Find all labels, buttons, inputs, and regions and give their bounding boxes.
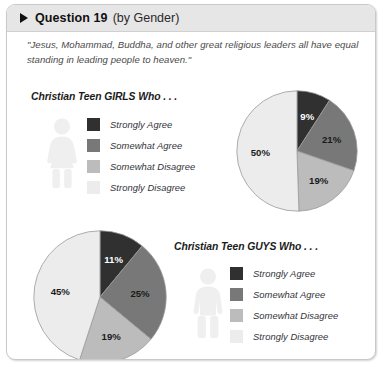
legend-swatch [230,267,243,280]
girls-section-title: Christian Teen GIRLS Who . . . [31,91,177,102]
page-title: Question 19 [35,11,108,25]
girls-legend: Strongly Agree Somewhat Agree Somewhat D… [87,114,195,198]
page-subtitle: (by Gender) [113,11,180,25]
triangle-right-icon [20,13,28,23]
legend-item: Strongly Agree [230,263,338,284]
legend-item-label: Somewhat Agree [253,289,325,300]
legend-item-label: Somewhat Disagree [253,310,338,321]
legend-item: Somewhat Disagree [230,305,338,326]
pie-slice [237,91,299,211]
guys-section-title: Christian Teen GUYS Who . . . [174,241,318,252]
question-quote: "Jesus, Mohammad, Buddha, and other grea… [27,38,359,67]
male-figure-icon [189,267,227,343]
card-header: Question 19 (by Gender) [7,5,375,32]
legend-swatch [230,288,243,301]
legend-item: Somewhat Agree [87,135,195,156]
legend-swatch [87,160,100,173]
girls-pie-chart: 9%21%19%50% [236,90,358,212]
guys-pie-chart: 11%25%19%45% [33,230,167,360]
legend-item-label: Strongly Agree [253,268,315,279]
legend-item: Somewhat Disagree [87,156,195,177]
female-figure-icon [43,117,81,193]
legend-item: Strongly Disagree [87,177,195,198]
legend-swatch [87,139,100,152]
question-card: Question 19 (by Gender) "Jesus, Mohammad… [6,4,376,360]
legend-item: Strongly Agree [87,114,195,135]
legend-swatch [87,118,100,131]
legend-item-label: Somewhat Disagree [110,161,195,172]
legend-swatch [230,309,243,322]
legend-swatch [87,181,100,194]
legend-item-label: Strongly Disagree [253,331,328,342]
guys-legend: Strongly Agree Somewhat Agree Somewhat D… [230,263,338,347]
legend-item-label: Somewhat Agree [110,140,182,151]
legend-item-label: Strongly Disagree [110,182,185,193]
legend-swatch [230,330,243,343]
legend-item: Somewhat Agree [230,284,338,305]
legend-item-label: Strongly Agree [110,119,172,130]
legend-item: Strongly Disagree [230,326,338,347]
